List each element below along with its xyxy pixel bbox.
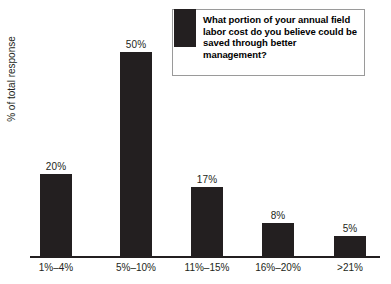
legend-color-swatch bbox=[174, 9, 196, 47]
x-axis-line bbox=[30, 256, 380, 258]
bar-rect[interactable] bbox=[191, 187, 223, 256]
bar-value-label: 5% bbox=[320, 223, 380, 234]
bar-value-label: 8% bbox=[248, 210, 308, 221]
y-axis-title: % of total response bbox=[6, 14, 17, 144]
legend-question-box: What portion of your annual field labor … bbox=[172, 9, 365, 76]
bar-value-label: 17% bbox=[177, 174, 237, 185]
x-tick-label: 5%–10% bbox=[98, 262, 174, 273]
bar-rect[interactable] bbox=[262, 223, 294, 256]
bar-rect[interactable] bbox=[120, 52, 152, 256]
bar-chart-figure: 20% 1%–4% 50% 5%–10% 17% 11%–15% 8% 16%–… bbox=[0, 0, 391, 284]
legend-question-text: What portion of your annual field labor … bbox=[196, 10, 364, 60]
x-tick-label: >21% bbox=[312, 262, 388, 273]
bar-value-label: 50% bbox=[106, 39, 166, 50]
bar-rect[interactable] bbox=[40, 174, 72, 256]
x-tick-label: 11%–15% bbox=[169, 262, 245, 273]
bar-value-label: 20% bbox=[26, 161, 86, 172]
x-tick-label: 16%–20% bbox=[240, 262, 316, 273]
bar-rect[interactable] bbox=[334, 236, 366, 256]
x-tick-label: 1%–4% bbox=[18, 262, 94, 273]
